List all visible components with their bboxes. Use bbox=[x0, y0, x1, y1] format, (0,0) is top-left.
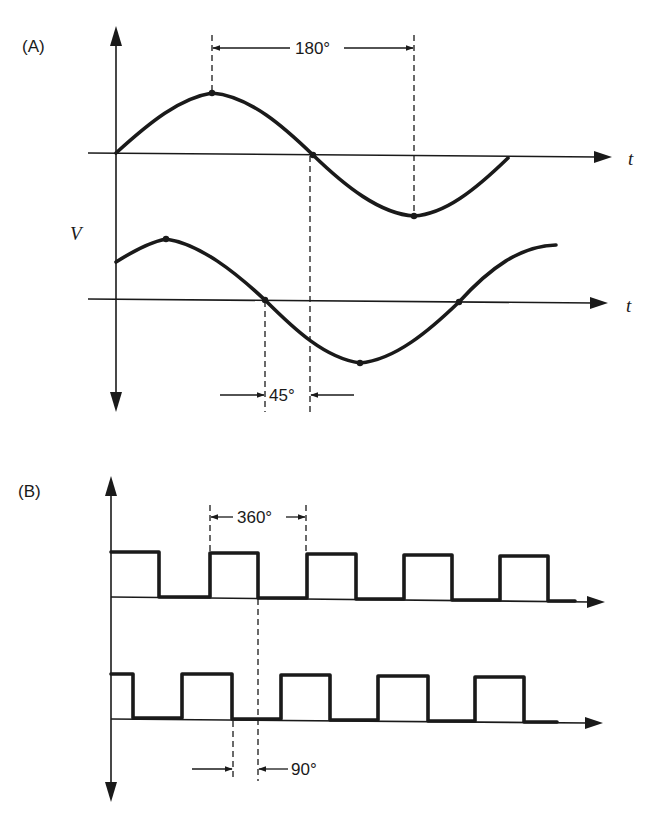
x-axis-square-bottom-arrow-icon bbox=[585, 717, 603, 729]
x-axis-top bbox=[88, 153, 598, 157]
y-axis-b-arrow-down-icon bbox=[105, 782, 117, 802]
x-axis-bottom-arrow-icon bbox=[590, 297, 608, 309]
peak-dot-shifted bbox=[163, 236, 169, 242]
x-axis-bottom bbox=[88, 299, 594, 303]
zero-cross-dot-shifted-2 bbox=[456, 299, 462, 305]
phase-annotation-45: 45° bbox=[269, 386, 295, 405]
y-axis-label: V bbox=[70, 223, 84, 244]
panel-a: (A) V t 180° t 45 bbox=[22, 26, 634, 412]
shifted-square-wave bbox=[111, 674, 557, 722]
panel-b: (B) 360° 90° bbox=[18, 476, 605, 802]
x-axis-top-arrow-icon bbox=[594, 151, 612, 163]
x-axis-bottom-label: t bbox=[626, 295, 632, 316]
x-axis-square-top-arrow-icon bbox=[587, 596, 605, 608]
period-annotation-360: 360° bbox=[237, 508, 272, 527]
period-annotation-180: 180° bbox=[295, 39, 330, 58]
trough-dot-shifted bbox=[357, 360, 363, 366]
reference-square-wave bbox=[111, 552, 575, 601]
phase-annotation-90: 90° bbox=[291, 760, 317, 779]
phase-shift-diagram: (A) V t 180° t 45 bbox=[0, 0, 647, 818]
x-axis-top-label: t bbox=[628, 148, 634, 169]
trough-dot bbox=[411, 213, 417, 219]
y-axis-arrow-up-icon bbox=[110, 26, 122, 46]
y-axis-arrow-down-icon bbox=[110, 392, 122, 412]
y-axis-b-arrow-up-icon bbox=[105, 476, 117, 496]
zero-cross-dot bbox=[310, 152, 316, 158]
panel-b-label: (B) bbox=[18, 482, 41, 501]
panel-a-label: (A) bbox=[22, 37, 45, 56]
